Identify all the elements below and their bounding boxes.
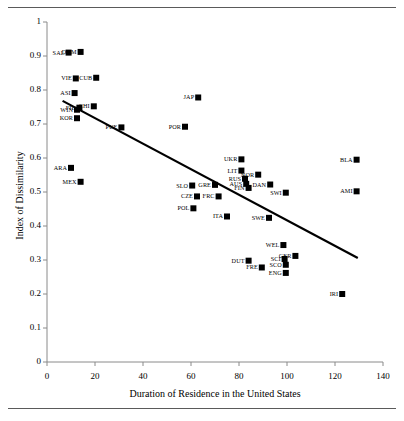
y-axis-title: Index of Dissimilarity (14, 116, 25, 276)
data-point-label: FRC (203, 192, 215, 199)
data-point-label: POL (177, 204, 189, 211)
data-point-label: JAP (184, 93, 195, 100)
data-point-label: POR (169, 123, 181, 130)
data-point-marker (212, 182, 218, 188)
y-tick-label: 0.2 (11, 288, 41, 298)
data-point-label: ASI (60, 89, 70, 96)
data-point-label: PUE (105, 123, 117, 130)
data-point-marker (255, 172, 261, 178)
data-point-label: CZE (181, 192, 193, 199)
data-point-label: FIN (234, 184, 244, 191)
data-point-marker (283, 270, 289, 276)
data-point-label: GER (279, 252, 292, 259)
data-point-marker (73, 75, 79, 81)
data-point-label: GRE (198, 181, 211, 188)
x-tick-label: 100 (267, 371, 307, 381)
data-point-label: KOR (60, 114, 73, 121)
chart-canvas (0, 0, 404, 421)
data-point-marker (238, 156, 244, 162)
data-points (66, 49, 360, 297)
data-point-marker (118, 124, 124, 130)
data-point-marker (182, 124, 188, 130)
data-point-label: BLA (340, 156, 353, 163)
data-point-marker (93, 75, 99, 81)
x-axis-title: Duration of Residence in the United Stat… (47, 388, 383, 399)
data-point-marker (189, 183, 195, 189)
x-tick-label: 120 (315, 371, 355, 381)
data-point-marker (267, 182, 273, 188)
data-point-marker (354, 157, 360, 163)
data-point-label: DOM (62, 48, 77, 55)
data-point-label: SWE (252, 214, 265, 221)
data-point-marker (266, 215, 272, 221)
x-tick-label: 40 (123, 371, 163, 381)
x-tick-label: 20 (75, 371, 115, 381)
data-point-label: SLO (176, 182, 188, 189)
y-tick-label: 1 (11, 16, 41, 26)
x-tick-label: 60 (171, 371, 211, 381)
data-point-label: SCO (269, 261, 281, 268)
data-point-label: MEX (63, 178, 77, 185)
data-point-label: SWI (270, 189, 282, 196)
chart-page: 00.10.20.30.40.50.60.70.80.9102040608010… (0, 0, 404, 421)
data-point-label: ENG (269, 269, 282, 276)
data-point-marker (354, 188, 360, 194)
data-point-marker (259, 264, 265, 270)
y-tick-label: 0.8 (11, 84, 41, 94)
data-point-marker (194, 193, 200, 199)
data-point-label: AMI (340, 187, 352, 194)
data-point-label: NOR (241, 171, 254, 178)
data-point-label: CUB (79, 74, 92, 81)
y-tick-label: 0 (11, 356, 41, 366)
data-point-marker (78, 49, 84, 55)
data-point-marker (224, 213, 230, 219)
scatter-plot: 00.10.20.30.40.50.60.70.80.9102040608010… (0, 0, 404, 421)
data-point-marker (280, 242, 286, 248)
data-point-marker (283, 190, 289, 196)
data-point-label: CHI (79, 102, 90, 109)
data-point-label: VIE (61, 74, 72, 81)
data-point-marker (68, 165, 74, 171)
data-point-marker (74, 115, 80, 121)
data-point-label: LIT (227, 167, 237, 174)
data-point-label: DUT (232, 257, 245, 264)
data-point-marker (78, 179, 84, 185)
data-point-marker (339, 291, 345, 297)
y-tick-label: 0.9 (11, 50, 41, 60)
x-tick-label: 140 (363, 371, 403, 381)
data-point-label: FRE (246, 263, 258, 270)
x-tick-label: 0 (27, 371, 67, 381)
data-point-marker (91, 103, 97, 109)
data-point-label: WEL (266, 241, 280, 248)
data-point-marker (72, 90, 78, 96)
y-tick-label: 0.1 (11, 322, 41, 332)
data-point-label: IRI (330, 290, 339, 297)
data-point-marker (246, 185, 252, 191)
data-point-marker (190, 205, 196, 211)
data-point-marker (283, 262, 289, 268)
data-point-label: ARA (54, 164, 67, 171)
x-tick-label: 80 (219, 371, 259, 381)
data-point-label: ITA (213, 212, 223, 219)
data-point-marker (195, 94, 201, 100)
data-point-marker (216, 193, 222, 199)
data-point-label: DAN (252, 181, 266, 188)
data-point-label: UKR (224, 155, 237, 162)
data-point-marker (292, 253, 298, 259)
data-point-label: WIN (60, 106, 73, 113)
